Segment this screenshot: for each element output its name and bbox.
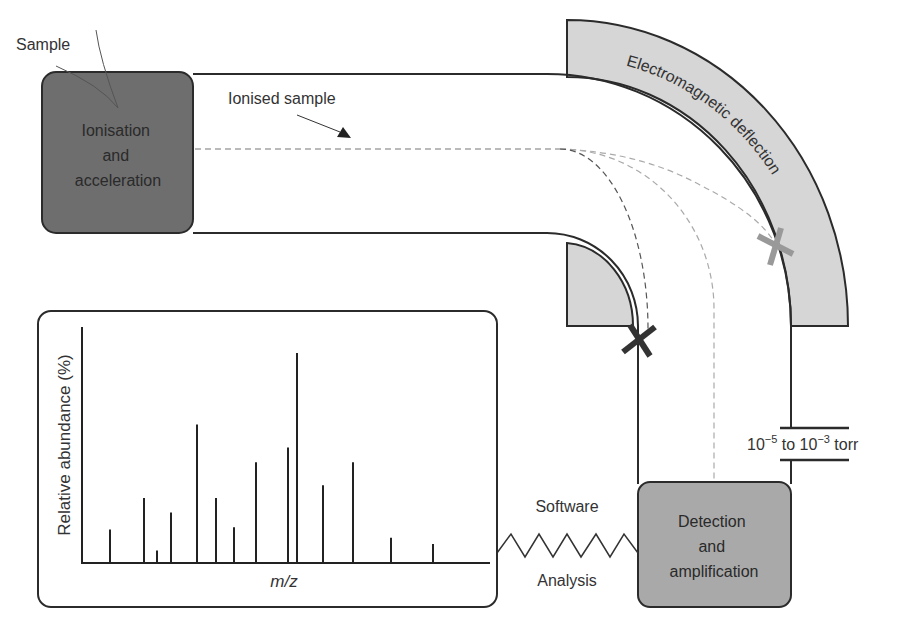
y-axis-label: Relative abundance (%) bbox=[55, 354, 74, 535]
ionisation-label-3: acceleration bbox=[75, 172, 161, 189]
detection-label-1: Detection bbox=[678, 513, 746, 530]
analysis-label: Analysis bbox=[537, 572, 597, 589]
mass-spectrometer-diagram: Ionisation and acceleration Sample Ionis… bbox=[0, 0, 907, 636]
ionised-sample-arrow bbox=[297, 115, 340, 132]
x-axis-label: m/z bbox=[270, 572, 298, 591]
ionisation-label-2: and bbox=[102, 147, 129, 164]
software-connection-zigzag bbox=[497, 534, 638, 557]
detection-label-2: and bbox=[698, 538, 725, 555]
ionised-sample-label: Ionised sample bbox=[228, 90, 336, 107]
detection-label-3: amplification bbox=[670, 563, 759, 580]
electromagnet-inner bbox=[567, 243, 633, 326]
arrowhead-icon bbox=[337, 127, 351, 138]
software-label: Software bbox=[535, 498, 598, 515]
pressure-label: 10−5 to 10−3 torr bbox=[747, 433, 859, 453]
ionisation-label-1: Ionisation bbox=[82, 122, 151, 139]
sample-label: Sample bbox=[16, 36, 70, 53]
